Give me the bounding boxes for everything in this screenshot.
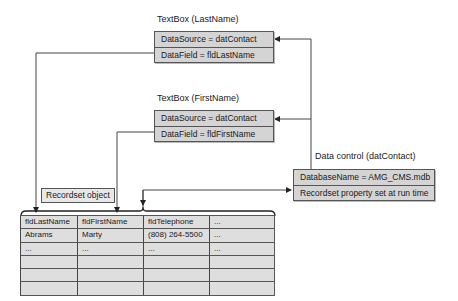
table-cell (21, 282, 78, 294)
table-cell (210, 256, 274, 268)
table-cell: Abrams (21, 229, 78, 241)
textbox-lastname-title: TextBox (LastName) (157, 14, 239, 24)
table-cell (21, 269, 78, 281)
data-control-recordset: Recordset property set at run time (294, 185, 434, 200)
table-cell: ... (144, 243, 210, 255)
table-cell (210, 269, 274, 281)
table-cell: (808) 264-5500 (144, 229, 210, 241)
table-row (21, 269, 274, 282)
table-header: fldTelephone (144, 216, 210, 228)
textbox-firstname-box: DataSource = datContact DataField = fldF… (154, 110, 274, 142)
table-row (21, 256, 274, 269)
textbox-firstname-title: TextBox (FirstName) (157, 93, 239, 103)
table-cell (144, 282, 210, 294)
table-row: ... ... ... ... (21, 243, 274, 256)
table-cell (144, 256, 210, 268)
table-cell: ... (210, 229, 274, 241)
textbox-lastname-datasource: DataSource = datContact (155, 32, 273, 47)
table-header: fldFirstName (78, 216, 144, 228)
table-header: fldLastName (21, 216, 78, 228)
table-cell (21, 256, 78, 268)
table-cell (144, 269, 210, 281)
data-control-databasename: DatabaseName = AMG_CMS.mdb (294, 170, 434, 185)
recordset-object-label: Recordset object (41, 188, 115, 203)
textbox-firstname-datafield: DataField = fldFirstName (155, 126, 273, 141)
textbox-lastname-box: DataSource = datContact DataField = fldL… (154, 31, 274, 63)
data-control-title: Data control (datContact) (315, 151, 416, 161)
table-header: ... (210, 216, 274, 228)
table-row: Abrams Marty (808) 264-5500 ... (21, 229, 274, 242)
table-cell: ... (21, 243, 78, 255)
recordset-table: fldLastName fldFirstName fldTelephone ..… (20, 215, 275, 296)
table-cell: ... (210, 243, 274, 255)
data-control-box: DatabaseName = AMG_CMS.mdb Recordset pro… (293, 169, 435, 201)
table-cell (210, 282, 274, 294)
textbox-lastname-datafield: DataField = fldLastName (155, 47, 273, 62)
table-cell: Marty (78, 229, 144, 241)
table-row (21, 282, 274, 294)
table-cell: ... (78, 243, 144, 255)
table-cell (78, 256, 144, 268)
table-cell (78, 269, 144, 281)
textbox-firstname-datasource: DataSource = datContact (155, 111, 273, 126)
table-header-row: fldLastName fldFirstName fldTelephone ..… (21, 216, 274, 229)
table-cell (78, 282, 144, 294)
